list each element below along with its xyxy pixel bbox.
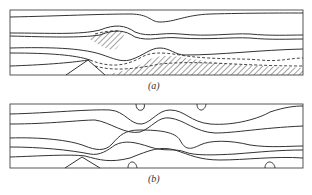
recirculation-lobe: [265, 162, 275, 168]
separation-region-lower: [105, 56, 303, 75]
streamline: [10, 60, 88, 66]
panel-a: [10, 10, 303, 75]
figure: [0, 0, 312, 195]
recirculation-lobe: [197, 104, 206, 110]
streamline: [10, 13, 303, 22]
panel-b-label: (b): [148, 173, 160, 184]
panel-b: [10, 104, 303, 168]
streamline: [10, 130, 303, 150]
streamline: [10, 148, 303, 160]
panel-a-label: (a): [148, 80, 160, 91]
streamline: [10, 142, 303, 155]
streamline: [10, 53, 90, 60]
recirculation-lobe: [128, 162, 137, 168]
recirculation-lobe: [136, 104, 144, 110]
streamline: [10, 26, 303, 35]
